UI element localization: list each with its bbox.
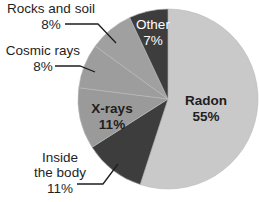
label-radon-pct: 55%: [192, 109, 219, 124]
label-cosmic-rays-name: Cosmic rays: [6, 43, 81, 58]
label-inside-the-body-line1: Inside: [42, 150, 78, 165]
label-rocks-and-soil-name: Rocks and soil: [7, 1, 95, 16]
label-inside-the-body-pct: 11%: [47, 181, 73, 196]
pie-chart: Rocks and soil 8% Cosmic rays 8% Other 7…: [0, 0, 259, 202]
label-rocks-and-soil-pct: 8%: [41, 17, 61, 32]
pie-slices: [78, 9, 258, 189]
label-other-pct: 7%: [143, 33, 163, 48]
label-inside-the-body-line2: the body: [34, 165, 86, 180]
label-other-name: Other: [136, 17, 170, 32]
label-x-rays-name: X-rays: [91, 101, 132, 116]
label-radon-name: Radon: [185, 93, 227, 108]
label-cosmic-rays-pct: 8%: [33, 59, 53, 74]
label-x-rays-pct: 11%: [99, 117, 125, 132]
